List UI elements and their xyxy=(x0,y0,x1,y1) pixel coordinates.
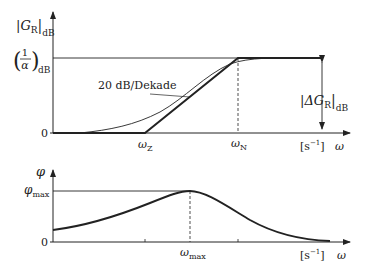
asymptote-line xyxy=(53,58,322,133)
omega-n-label: ωN xyxy=(231,137,247,152)
slope-label: 20 dB/Dekade xyxy=(98,79,176,92)
phase-x-axis-label: ω xyxy=(337,249,346,262)
magnitude-axis-label: |GR|dB xyxy=(16,17,55,38)
phase-axis-label: φ xyxy=(36,164,46,179)
phase-zero-label: 0 xyxy=(41,236,48,249)
svg-text:dB: dB xyxy=(38,65,51,75)
omega-z-label: ωZ xyxy=(138,138,153,153)
magnitude-unit-label: [s−1] xyxy=(300,139,325,153)
magnitude-zero-label: 0 xyxy=(41,127,48,140)
level-label: ( 1 α ) dB xyxy=(13,47,51,75)
phase-plot: φ φmax 0 ωmax [s−1] ω xyxy=(24,164,350,262)
bode-diagram: |GR|dB ( 1 α ) dB 0 20 dB/Dekade ωZ ωN [… xyxy=(0,0,374,262)
svg-text:1: 1 xyxy=(22,47,28,58)
delta-label: |ΔGR|dB xyxy=(300,92,348,113)
phi-max-label: φmax xyxy=(24,183,50,199)
omega-max-label: ωmax xyxy=(180,246,206,261)
svg-text:α: α xyxy=(21,59,29,72)
magnitude-x-axis-label: ω xyxy=(335,140,344,153)
phase-curve xyxy=(53,191,330,241)
phase-unit-label: [s−1] xyxy=(300,248,325,262)
magnitude-plot: |GR|dB ( 1 α ) dB 0 20 dB/Dekade ωZ ωN [… xyxy=(13,12,350,153)
